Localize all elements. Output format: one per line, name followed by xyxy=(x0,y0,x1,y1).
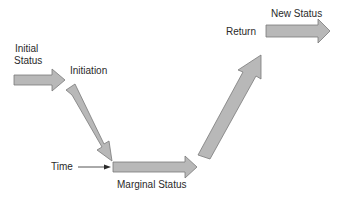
status-flow-diagram: Initial Status Initiation Time Marginal … xyxy=(0,0,345,205)
return-label: Return xyxy=(226,26,256,38)
diagram-canvas xyxy=(0,0,345,205)
initial-status-arrow xyxy=(14,69,65,91)
initial-status-label-line1: Initial xyxy=(15,43,38,55)
new-status-arrow xyxy=(266,19,330,43)
time-label: Time xyxy=(51,161,73,173)
marginal-status-arrow xyxy=(113,156,197,178)
initiation-label: Initiation xyxy=(70,65,107,77)
initial-status-label-line2: Status xyxy=(14,55,42,67)
initiation-arrow xyxy=(66,84,112,161)
marginal-status-label: Marginal Status xyxy=(117,179,186,191)
new-status-label: New Status xyxy=(271,8,322,20)
time-pointer xyxy=(78,165,111,170)
return-arrow xyxy=(198,55,261,159)
